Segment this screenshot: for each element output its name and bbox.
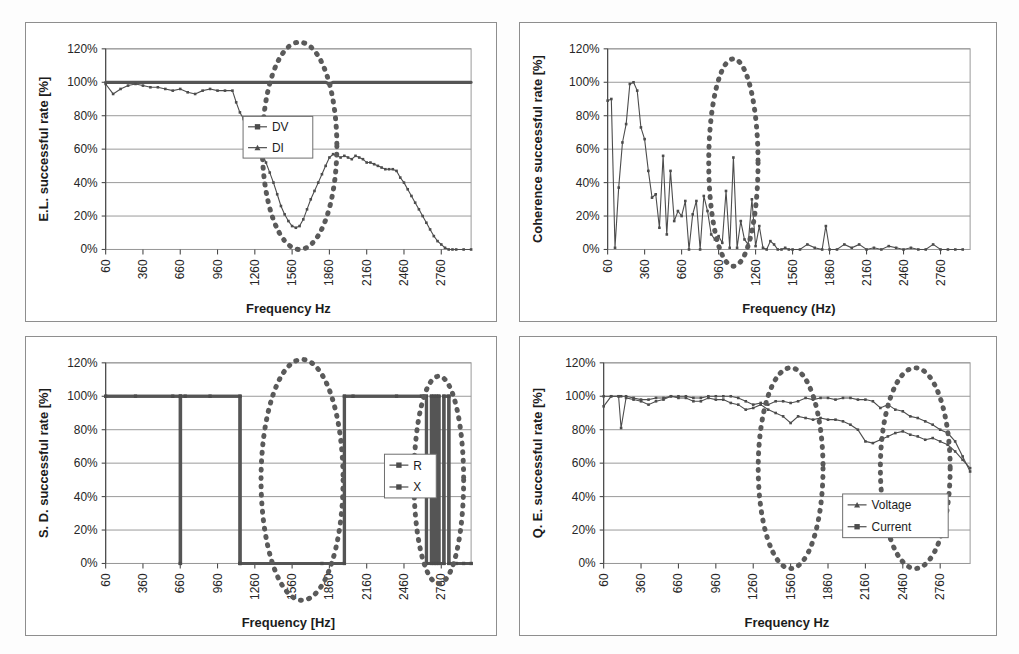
legend-marker-Current-square-icon — [854, 524, 859, 529]
y-axis: 0%20%40%60%80%100%120% — [569, 42, 608, 257]
y-tick-label-80%: 80% — [572, 423, 596, 437]
chart-qe-success-rate[interactable]: 0%20%40%60%80%100%120%603606609601260156… — [520, 337, 996, 635]
y-tick-label-120%: 120% — [569, 42, 600, 56]
y-tick-label-100%: 100% — [565, 389, 596, 403]
y-tick-label-60%: 60% — [74, 456, 98, 470]
y-tick-label-80%: 80% — [74, 423, 98, 437]
y-tick-label-0%: 0% — [582, 242, 600, 256]
legend-marker-R-square-icon — [396, 462, 401, 467]
x-tick-label-1260: 1260 — [746, 573, 760, 600]
x-tick-label-2760: 2760 — [933, 573, 947, 600]
chart-panel-coherence-success-rate: 0%20%40%60%80%100%120%603606609601260156… — [519, 22, 997, 322]
highlight-ellipse-1 — [758, 368, 823, 569]
y-tick-label-40%: 40% — [74, 176, 98, 190]
chart-sd-success-rate[interactable]: 0%20%40%60%80%100%120%603606609601260156… — [26, 337, 496, 635]
y-axis: 0%20%40%60%80%100%120% — [565, 356, 604, 571]
y-tick-label-120%: 120% — [565, 356, 596, 370]
legend-box — [384, 454, 436, 498]
y-tick-label-40%: 40% — [572, 490, 596, 504]
x-tick-label-360: 360 — [638, 259, 652, 279]
legend-label-Current: Current — [872, 520, 912, 534]
x-tick-label-1860: 1860 — [322, 259, 336, 286]
y-axis: 0%20%40%60%80%100%120% — [67, 356, 106, 571]
legend[interactable]: RX — [384, 454, 436, 498]
y-axis-title: Q. E. successful rate [%] — [530, 388, 545, 538]
y-tick-label-40%: 40% — [74, 490, 98, 504]
y-tick-label-120%: 120% — [67, 42, 98, 56]
x-tick-label-1560: 1560 — [784, 573, 798, 600]
legend-marker-X-square-icon — [396, 484, 401, 489]
x-axis: 60360660960126015601860216024602760 — [99, 249, 449, 285]
highlight-ellipse-2 — [880, 368, 950, 569]
chart-panel-sd-success-rate: 0%20%40%60%80%100%120%603606609601260156… — [25, 336, 497, 636]
y-tick-label-80%: 80% — [74, 109, 98, 123]
x-axis-title: Frequency Hz — [745, 615, 830, 630]
y-tick-label-60%: 60% — [576, 142, 600, 156]
x-axis: 60360660960126015601860216024602760 — [597, 563, 948, 599]
x-tick-label-960: 960 — [709, 573, 723, 593]
x-tick-label-660: 660 — [173, 573, 187, 593]
x-tick-label-2460: 2460 — [896, 573, 910, 600]
y-axis-title: Coherence successful rate [%] — [530, 55, 545, 243]
y-tick-label-20%: 20% — [74, 209, 98, 223]
x-tick-label-660: 660 — [671, 573, 685, 593]
chart-coherence-success-rate[interactable]: 0%20%40%60%80%100%120%603606609601260156… — [520, 23, 996, 321]
x-tick-label-2460: 2460 — [397, 259, 411, 286]
x-axis-title: Frequency [Hz] — [242, 615, 335, 630]
x-tick-label-60: 60 — [597, 573, 611, 587]
x-tick-label-360: 360 — [136, 259, 150, 279]
x-tick-label-2160: 2160 — [360, 573, 374, 600]
legend-label-R: R — [413, 459, 422, 473]
chart-panel-el-success-rate: 0%20%40%60%80%100%120%603606609601260156… — [25, 22, 497, 322]
x-tick-label-960: 960 — [712, 259, 726, 279]
y-tick-label-20%: 20% — [576, 209, 600, 223]
y-tick-label-0%: 0% — [80, 556, 98, 570]
y-axis: 0%20%40%60%80%100%120% — [67, 42, 106, 257]
legend-label-Voltage: Voltage — [872, 498, 912, 512]
x-tick-label-360: 360 — [634, 573, 648, 593]
y-tick-label-0%: 0% — [80, 242, 98, 256]
series-markers-Current — [602, 395, 971, 473]
x-tick-label-2760: 2760 — [434, 259, 448, 286]
x-tick-label-1560: 1560 — [285, 259, 299, 286]
y-tick-label-20%: 20% — [74, 523, 98, 537]
series-line-DV — [106, 82, 471, 84]
y-tick-label-80%: 80% — [576, 109, 600, 123]
series-line-Voltage — [604, 396, 970, 468]
y-tick-label-0%: 0% — [578, 556, 596, 570]
series-line-Coherence — [608, 82, 963, 249]
four-panel-figure: 0%20%40%60%80%100%120%603606609601260156… — [0, 0, 1019, 654]
legend-label-DV: DV — [272, 120, 289, 134]
legend-marker-DV-square-icon — [255, 124, 260, 129]
chart-el-success-rate[interactable]: 0%20%40%60%80%100%120%603606609601260156… — [26, 23, 496, 321]
x-tick-label-660: 660 — [173, 259, 187, 279]
series-line-Current — [604, 396, 970, 471]
x-axis-title: Frequency (Hz) — [742, 301, 835, 316]
legend-label-X: X — [413, 480, 421, 494]
x-tick-label-960: 960 — [211, 259, 225, 279]
x-tick-label-2460: 2460 — [897, 259, 911, 286]
series-markers-DI — [104, 83, 472, 251]
grid-group — [608, 49, 970, 250]
x-tick-label-960: 960 — [211, 573, 225, 593]
x-tick-label-1860: 1860 — [823, 259, 837, 286]
y-tick-label-100%: 100% — [67, 389, 98, 403]
x-tick-label-360: 360 — [136, 573, 150, 593]
x-tick-label-1560: 1560 — [786, 259, 800, 286]
x-tick-label-660: 660 — [675, 259, 689, 279]
chart-panel-qe-success-rate: 0%20%40%60%80%100%120%603606609601260156… — [519, 336, 997, 636]
x-tick-label-60: 60 — [99, 573, 113, 587]
x-tick-label-1260: 1260 — [749, 259, 763, 286]
series-markers-Voltage — [602, 395, 971, 469]
legend-label-DI: DI — [272, 141, 284, 155]
x-tick-label-2460: 2460 — [397, 573, 411, 600]
y-tick-label-120%: 120% — [67, 356, 98, 370]
y-tick-label-40%: 40% — [576, 176, 600, 190]
x-tick-label-2160: 2160 — [858, 573, 872, 600]
legend[interactable]: DVDI — [243, 116, 313, 158]
x-axis-title: Frequency Hz — [246, 301, 331, 316]
x-tick-label-1260: 1260 — [248, 573, 262, 600]
y-tick-label-20%: 20% — [572, 523, 596, 537]
legend[interactable]: VoltageCurrent — [843, 494, 949, 538]
series-line-DI — [106, 84, 471, 249]
